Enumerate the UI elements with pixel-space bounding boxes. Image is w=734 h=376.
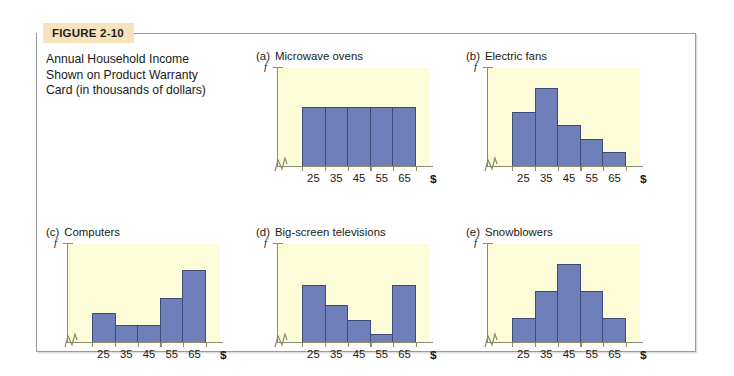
chart-title-b: (b)Electric fans <box>466 50 547 62</box>
panel-title-text-e: Snowblowers <box>485 226 553 238</box>
x-tick-label-group-b: 2535455565 <box>512 172 626 186</box>
x-axis-tick <box>370 342 371 347</box>
chart-title-d: (d)Big-screen televisions <box>256 226 386 238</box>
panel-title-text-c: Computers <box>64 226 120 238</box>
bar <box>512 318 536 343</box>
plot-area-b: f 2535455565 $ <box>488 68 640 166</box>
x-tick-group-b <box>512 166 626 171</box>
bar <box>92 313 116 342</box>
chart-panel-computers: (c)Computers f 2535455565 $ <box>46 226 231 374</box>
x-axis-tick <box>512 342 513 347</box>
plot-area-a: f 2535455565 $ <box>278 68 430 166</box>
y-axis-b <box>487 68 488 166</box>
x-axis-label-b: $ <box>640 172 647 186</box>
y-axis-label-d: f <box>264 236 267 248</box>
x-tick-label: 35 <box>324 172 348 184</box>
x-axis-tick <box>206 342 207 347</box>
bar <box>580 291 604 342</box>
x-tick-label: 45 <box>347 172 371 184</box>
bar <box>557 264 581 342</box>
x-tick-label: 25 <box>301 348 325 360</box>
y-axis-top-tick-a <box>273 67 283 68</box>
x-axis-tick <box>393 166 394 171</box>
y-axis-top-tick-e <box>483 243 493 244</box>
x-axis-label-e: $ <box>640 348 647 362</box>
x-axis-tick <box>370 166 371 171</box>
bar-group-a <box>302 68 416 166</box>
x-tick-label: 45 <box>347 348 371 360</box>
x-tick-label: 25 <box>511 172 535 184</box>
plot-area-e: f 2535455565 $ <box>488 244 640 342</box>
x-axis-tick <box>512 166 513 171</box>
y-axis-label-a: f <box>264 60 267 72</box>
bar <box>580 139 604 166</box>
x-axis-tick <box>558 342 559 347</box>
x-tick-label: 35 <box>324 348 348 360</box>
x-axis-tick <box>416 166 417 171</box>
bar <box>115 325 139 342</box>
x-tick-label: 65 <box>603 172 627 184</box>
x-tick-label-group-c: 2535455565 <box>92 348 206 362</box>
bar <box>182 270 206 342</box>
bar <box>302 285 326 342</box>
x-tick-label: 35 <box>534 172 558 184</box>
panel-letter-d: (d) <box>256 226 270 238</box>
y-axis-top-tick-d <box>273 243 283 244</box>
x-tick-label: 65 <box>393 348 417 360</box>
x-axis-tick <box>580 342 581 347</box>
figure-caption-line-3: Card (in thousands of dollars) <box>46 83 246 99</box>
x-axis-tick <box>535 342 536 347</box>
bar <box>392 107 416 166</box>
x-axis-tick <box>580 166 581 171</box>
x-tick-label: 55 <box>370 172 394 184</box>
bar <box>535 291 559 342</box>
bar-group-e <box>512 244 626 342</box>
x-tick-label: 65 <box>393 172 417 184</box>
x-tick-label: 55 <box>580 348 604 360</box>
panel-letter-a: (a) <box>256 50 270 62</box>
x-axis-tick <box>92 342 93 347</box>
chart-panel-big-screen-televisions: (d)Big-screen televisions f 2535455565 $ <box>256 226 441 374</box>
bar-group-c <box>92 244 206 342</box>
chart-title-c: (c)Computers <box>46 226 120 238</box>
bar <box>392 285 416 342</box>
bar <box>325 305 349 342</box>
x-tick-label: 45 <box>557 172 581 184</box>
x-tick-label: 25 <box>91 348 115 360</box>
x-tick-label: 45 <box>137 348 161 360</box>
panel-title-text-a: Microwave ovens <box>275 50 363 62</box>
plot-area-d: f 2535455565 $ <box>278 244 430 342</box>
x-axis-tick <box>348 342 349 347</box>
bar <box>512 112 536 166</box>
figure-caption-line-2: Shown on Product Warranty <box>46 68 246 84</box>
x-axis-tick <box>160 342 161 347</box>
y-axis-top-tick-b <box>483 67 493 68</box>
chart-title-e: (e)Snowblowers <box>466 226 553 238</box>
x-tick-label-group-d: 2535455565 <box>302 348 416 362</box>
x-axis-tick <box>603 166 604 171</box>
chart-panel-microwave-ovens: (a)Microwave ovens f 2535455565 $ <box>256 50 441 198</box>
bar <box>370 107 394 166</box>
x-axis-tick <box>302 166 303 171</box>
x-tick-label-group-e: 2535455565 <box>512 348 626 362</box>
figure-caption-line-1: Annual Household Income <box>46 52 246 68</box>
x-axis-tick <box>115 342 116 347</box>
x-axis-label-c: $ <box>220 348 227 362</box>
panel-letter-c: (c) <box>46 226 59 238</box>
x-axis-tick <box>393 342 394 347</box>
x-tick-label: 45 <box>557 348 581 360</box>
x-axis-tick <box>325 166 326 171</box>
x-axis-label-a: $ <box>430 172 437 186</box>
bar-group-d <box>302 244 416 342</box>
y-axis-label-e: f <box>474 236 477 248</box>
x-tick-label: 55 <box>160 348 184 360</box>
bar <box>347 107 371 166</box>
x-axis-tick <box>626 166 627 171</box>
x-axis-tick <box>416 342 417 347</box>
x-tick-label: 35 <box>534 348 558 360</box>
x-axis-tick <box>302 342 303 347</box>
x-tick-group-e <box>512 342 626 347</box>
panel-letter-e: (e) <box>466 226 480 238</box>
x-tick-label: 35 <box>114 348 138 360</box>
panel-letter-b: (b) <box>466 50 480 62</box>
